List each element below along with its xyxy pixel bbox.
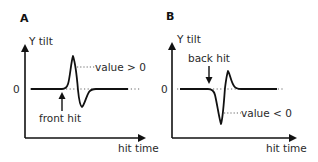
panel-a: A Y tilt 0 value > 0 front hit hit time — [0, 0, 159, 162]
value-label: value < 0 — [241, 108, 292, 119]
zero-label: 0 — [13, 84, 20, 95]
x-axis-label: hit time — [118, 143, 159, 154]
x-axis-label: hit time — [266, 143, 307, 154]
arrow-up-icon — [59, 92, 66, 111]
y-axis-label: Y tilt — [29, 36, 53, 47]
y-axis-label: Y tilt — [177, 34, 201, 45]
panel-letter: A — [20, 13, 29, 24]
panel-b-plot — [159, 0, 318, 162]
event-label: back hit — [188, 53, 230, 64]
panel-b: B Y tilt 0 back hit value < 0 hit time — [159, 0, 318, 162]
event-label: front hit — [39, 113, 81, 124]
value-label: value > 0 — [95, 62, 146, 73]
zero-label: 0 — [161, 84, 168, 95]
panel-letter: B — [166, 11, 174, 22]
arrow-down-icon — [206, 66, 213, 84]
